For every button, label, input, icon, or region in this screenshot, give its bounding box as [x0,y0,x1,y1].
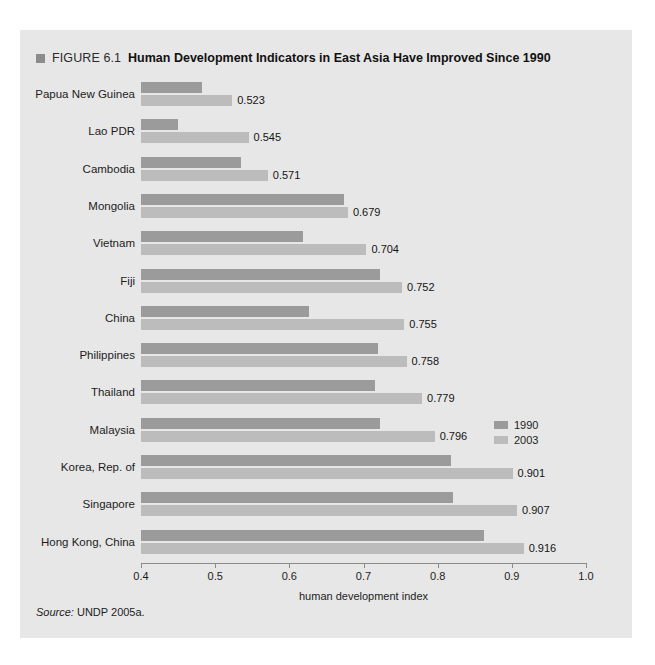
bar-2003 [141,282,402,293]
bar-2003 [141,319,404,330]
figure-panel: FIGURE 6.1 Human Development Indicators … [20,30,632,638]
bar-1990 [141,157,241,168]
category-label: Vietnam [93,237,135,249]
bar-2003 [141,505,517,516]
bar-value-label: 0.523 [237,95,265,106]
chart-row: Thailand0.779 [141,376,586,408]
bar-1990 [141,269,380,280]
bar-value-label: 0.916 [529,543,557,554]
bar-value-label: 0.752 [407,282,435,293]
bar-value-label: 0.755 [409,319,437,330]
category-label: Mongolia [88,200,135,212]
bar-2003 [141,356,407,367]
bar-2003 [141,132,249,143]
source-note: Source: UNDP 2005a. [36,606,145,618]
category-label: Korea, Rep. of [61,461,135,473]
bar-1990 [141,380,375,391]
chart-row: China0.755 [141,302,586,334]
bar-1990 [141,194,344,205]
category-label: Fiji [120,275,135,287]
figure-title-row: FIGURE 6.1 Human Development Indicators … [36,50,551,66]
bar-2003 [141,468,513,479]
bar-2003 [141,393,422,404]
bar-1990 [141,455,451,466]
x-axis-tick-label: 0.8 [430,570,445,582]
x-axis-tick [586,563,587,568]
bar-value-label: 0.779 [427,393,455,404]
chart-legend: 19902003 [494,418,538,448]
chart-row: Hong Kong, China0.916 [141,526,586,558]
bar-1990 [141,418,380,429]
chart-plot-area: Papua New Guinea0.523Lao PDR0.545Cambodi… [141,78,586,563]
x-axis-tick [289,563,290,568]
category-label: Philippines [79,349,135,361]
legend-item: 1990 [494,418,538,431]
legend-label: 1990 [514,419,538,431]
bar-value-label: 0.704 [371,244,399,255]
chart-row: Korea, Rep. of0.901 [141,451,586,483]
bar-1990 [141,231,303,242]
bar-1990 [141,343,378,354]
source-text: UNDP 2005a. [77,606,145,618]
bar-value-label: 0.571 [273,170,301,181]
figure-number: FIGURE 6.1 [52,51,121,65]
bar-1990 [141,119,178,130]
x-axis-tick [438,563,439,568]
bar-1990 [141,492,453,503]
chart-row: Singapore0.907 [141,488,586,520]
bar-value-label: 0.901 [518,468,546,479]
x-axis-tick-label: 0.7 [356,570,371,582]
chart-row: Mongolia0.679 [141,190,586,222]
category-label: Lao PDR [88,125,135,137]
bar-value-label: 0.545 [254,132,282,143]
chart-row: Vietnam0.704 [141,227,586,259]
category-label: Thailand [91,386,135,398]
category-label: Cambodia [83,163,135,175]
figure-title: Human Development Indicators in East Asi… [128,51,551,65]
bar-2003 [141,207,348,218]
category-label: China [105,312,135,324]
category-label: Papua New Guinea [35,88,135,100]
legend-label: 2003 [514,434,538,446]
bar-value-label: 0.679 [353,207,381,218]
bar-2003 [141,95,232,106]
chart-row: Philippines0.758 [141,339,586,371]
category-label: Hong Kong, China [41,536,135,548]
category-label: Singapore [83,498,135,510]
chart-row: Cambodia0.571 [141,153,586,185]
bar-1990 [141,530,484,541]
x-axis-tick-label: 0.5 [208,570,223,582]
bar-2003 [141,543,524,554]
bar-value-label: 0.758 [412,356,440,367]
x-axis-tick-label: 0.9 [504,570,519,582]
bar-1990 [141,82,202,93]
x-axis-title: human development index [141,590,586,602]
category-label: Malaysia [90,424,135,436]
x-axis-tick [141,563,142,568]
x-axis-tick [512,563,513,568]
bar-2003 [141,170,268,181]
bar-value-label: 0.796 [440,431,468,442]
legend-swatch-icon [494,436,508,444]
x-axis-tick-label: 0.6 [282,570,297,582]
bar-1990 [141,306,309,317]
x-axis-tick-label: 0.4 [133,570,148,582]
chart-row: Fiji0.752 [141,265,586,297]
legend-swatch-icon [494,421,508,429]
x-axis-tick [215,563,216,568]
x-axis-tick-label: 1.0 [578,570,593,582]
chart-row: Lao PDR0.545 [141,115,586,147]
bar-2003 [141,244,366,255]
legend-item: 2003 [494,433,538,446]
x-axis-tick [364,563,365,568]
bar-value-label: 0.907 [522,505,550,516]
chart-row: Papua New Guinea0.523 [141,78,586,110]
source-label: Source: [36,606,74,618]
bar-2003 [141,431,435,442]
square-marker-icon [36,54,45,63]
